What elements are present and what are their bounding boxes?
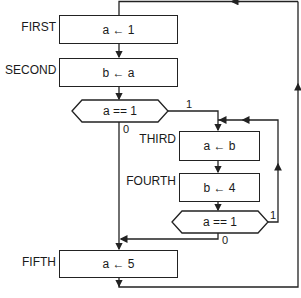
box-text: b ← 4 (203, 181, 235, 195)
process-box-third: a ← b (179, 131, 260, 161)
arrow-cond1-true (168, 111, 218, 130)
label-third: THIRD (130, 132, 176, 146)
box-text: a ← 1 (102, 23, 134, 37)
branch-label-cond1-false: 0 (123, 123, 129, 135)
decision-text-1: a == 1 (82, 104, 158, 118)
label-second: SECOND (5, 63, 56, 77)
branch-label-cond1-true: 1 (186, 98, 192, 110)
process-box-second: b ← a (59, 58, 178, 87)
arrow-cond2-false (121, 233, 218, 239)
box-text: a ← 5 (102, 257, 134, 271)
label-first: FIRST (20, 20, 56, 34)
process-box-first: a ← 1 (59, 15, 178, 44)
label-fifth: FIFTH (14, 255, 56, 269)
box-text: b ← a (102, 66, 134, 80)
process-box-fourth: b ← 4 (179, 173, 260, 202)
box-text: a ← b (203, 139, 235, 153)
loop-top-line (119, 2, 298, 16)
process-box-fifth: a ← 5 (59, 250, 178, 278)
branch-label-cond2-true: 1 (270, 209, 276, 221)
label-fourth: FOURTH (120, 174, 176, 188)
decision-text-2: a == 1 (182, 215, 258, 229)
branch-label-cond2-false: 0 (222, 234, 228, 246)
